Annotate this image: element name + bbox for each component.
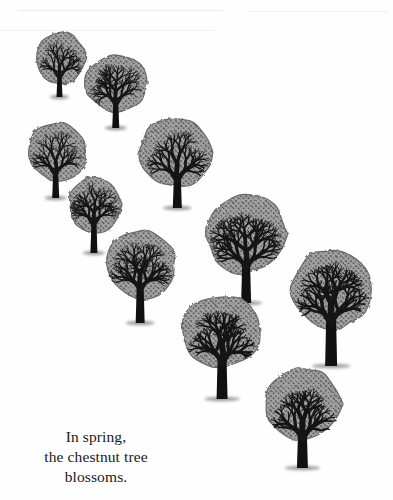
chestnut-tree — [37, 32, 87, 99]
chestnut-tree — [290, 250, 371, 368]
chestnut-trees-illustration — [0, 0, 393, 500]
chestnut-tree — [266, 368, 343, 470]
chestnut-tree — [139, 119, 213, 210]
chestnut-tree — [85, 55, 148, 130]
trees-layer — [29, 32, 372, 470]
caption-line-2: the chestnut tree — [16, 447, 176, 467]
chestnut-tree — [107, 230, 175, 325]
chestnut-tree — [206, 194, 288, 305]
caption-line-1: In spring, — [16, 427, 176, 447]
book-page: In spring, the chestnut tree blossoms. — [0, 0, 393, 500]
chestnut-tree — [182, 297, 260, 401]
caption: In spring, the chestnut tree blossoms. — [16, 427, 176, 487]
caption-line-3: blossoms. — [16, 467, 176, 487]
tree-trunk — [325, 320, 337, 366]
